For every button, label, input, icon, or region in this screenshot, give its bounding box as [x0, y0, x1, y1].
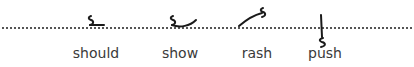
outline-push-icon: [320, 15, 325, 47]
shorthand-diagram: should show rash push: [0, 0, 414, 67]
shorthand-outlines: [0, 0, 414, 67]
word-label-show: show: [162, 45, 198, 61]
outline-should-icon: [89, 16, 104, 25]
word-label-should: should: [73, 45, 119, 61]
outline-rash-icon: [239, 8, 265, 26]
word-label-push: push: [308, 45, 342, 61]
outline-show-icon: [171, 16, 196, 26]
word-label-rash: rash: [242, 45, 273, 61]
